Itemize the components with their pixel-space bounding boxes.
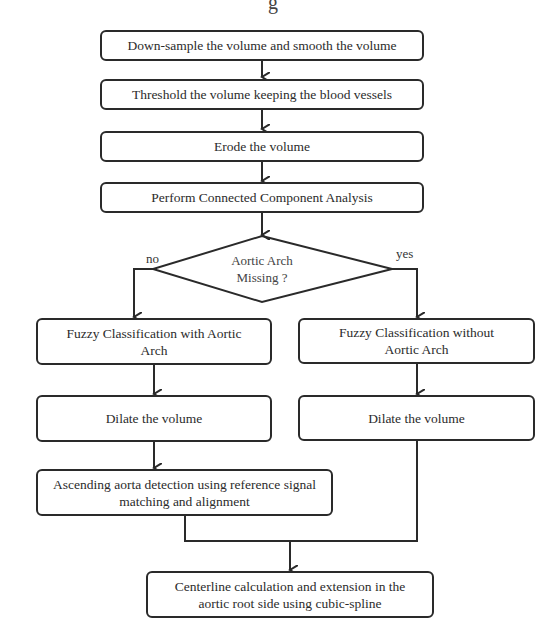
final-label: Centerline calculation and extension in … xyxy=(162,578,418,612)
decision-line1: Aortic Arch xyxy=(212,252,312,269)
step-cca-label: Perform Connected Component Analysis xyxy=(151,189,373,206)
step-erode: Erode the volume xyxy=(100,131,424,162)
right-dilate: Dilate the volume xyxy=(298,395,535,441)
flowchart: g Down-sa xyxy=(0,0,560,642)
step-downsample-label: Down-sample the volume and smooth the vo… xyxy=(127,37,396,54)
decision-text: Aortic Arch Missing ? xyxy=(212,252,312,286)
right-dilate-label: Dilate the volume xyxy=(368,410,465,427)
arrow-yes xyxy=(392,269,417,317)
right-fuzzy-label: Fuzzy Classification without Aortic Arch xyxy=(330,324,503,358)
right-fuzzy-classification: Fuzzy Classification without Aortic Arch xyxy=(298,318,535,364)
left-fuzzy-classification: Fuzzy Classification with Aortic Arch xyxy=(36,318,272,365)
decision-line2: Missing ? xyxy=(212,269,312,286)
left-dilate: Dilate the volume xyxy=(36,395,272,442)
left-fuzzy-label: Fuzzy Classification with Aortic Arch xyxy=(52,325,256,359)
centerline-calculation: Centerline calculation and extension in … xyxy=(146,571,434,618)
ascending-aorta-detection: Ascending aorta detection using referenc… xyxy=(36,469,333,516)
left-dilate-label: Dilate the volume xyxy=(106,410,203,427)
step-threshold: Threshold the volume keeping the blood v… xyxy=(100,79,424,110)
no-label: no xyxy=(146,251,159,267)
step-connected-component: Perform Connected Component Analysis xyxy=(100,182,424,213)
ascending-label: Ascending aorta detection using referenc… xyxy=(50,476,319,510)
arrow-no xyxy=(134,269,153,317)
yes-label: yes xyxy=(396,246,413,262)
step-downsample: Down-sample the volume and smooth the vo… xyxy=(100,30,424,61)
step-threshold-label: Threshold the volume keeping the blood v… xyxy=(132,86,392,103)
step-erode-label: Erode the volume xyxy=(214,138,310,155)
